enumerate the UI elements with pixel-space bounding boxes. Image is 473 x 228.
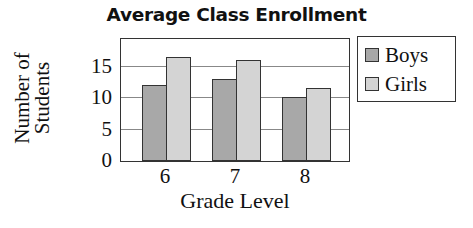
bar-girls-grade-6 xyxy=(166,57,191,161)
legend-item-boys: Boys xyxy=(365,43,428,67)
legend-item-girls: Girls xyxy=(365,72,427,96)
x-tick-label: 7 xyxy=(220,164,250,189)
bar-boys-grade-8 xyxy=(282,97,307,161)
bar-boys-grade-7 xyxy=(212,79,237,162)
bar-girls-grade-7 xyxy=(236,60,261,161)
chart-title: Average Class Enrollment xyxy=(0,4,473,25)
plot-area xyxy=(120,38,350,162)
legend-label: Girls xyxy=(385,72,427,97)
x-tick-label: 8 xyxy=(290,164,320,189)
y-tick-label: 5 xyxy=(72,117,112,142)
legend: Boys Girls xyxy=(357,36,456,102)
bar-boys-grade-6 xyxy=(142,85,167,161)
bar-girls-grade-8 xyxy=(306,88,331,161)
y-tick-label: 10 xyxy=(72,85,112,110)
x-tick-label: 6 xyxy=(150,164,180,189)
gridline xyxy=(121,66,349,67)
boys-swatch-icon xyxy=(365,48,379,62)
girls-swatch-icon xyxy=(365,77,379,91)
x-axis-label: Grade Level xyxy=(120,188,350,214)
y-tick-label: 0 xyxy=(72,148,112,173)
y-axis-label: Number of Students xyxy=(12,28,52,168)
y-tick-label: 15 xyxy=(72,54,112,79)
legend-label: Boys xyxy=(385,43,428,68)
